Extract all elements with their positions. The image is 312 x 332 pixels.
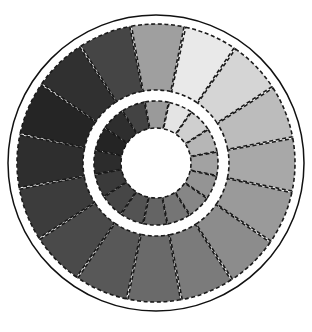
- sunburst-chart: [0, 0, 312, 332]
- center-hub: [122, 129, 190, 197]
- hub-group: [122, 129, 190, 197]
- chart-canvas: [0, 0, 312, 332]
